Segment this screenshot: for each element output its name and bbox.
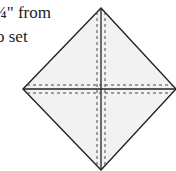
quilt-square-diagram [0,0,176,171]
